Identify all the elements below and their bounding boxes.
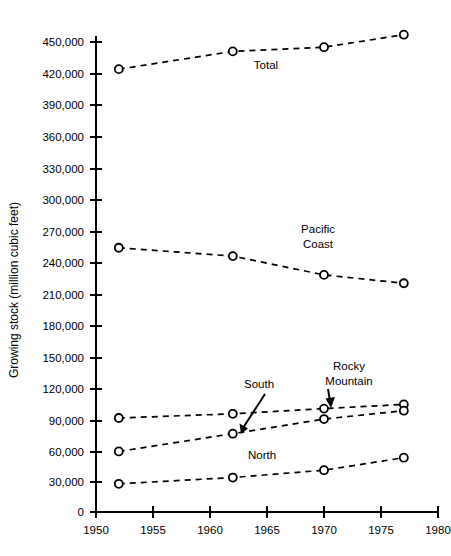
data-point <box>115 414 123 422</box>
x-tick-label: 1980 <box>425 524 451 536</box>
series-label-rocky-mountain-line2: Mountain <box>325 375 372 387</box>
series-label-total: Total <box>254 59 278 71</box>
x-tick-label: 1970 <box>311 524 337 536</box>
data-point <box>115 65 123 73</box>
data-point <box>229 474 237 482</box>
x-tick-label: 1960 <box>197 524 223 536</box>
series-label-south: South <box>244 378 274 390</box>
y-tick-330000: 330,000 <box>42 163 102 175</box>
y-tick-label: 390,000 <box>42 99 84 111</box>
x-tick-label: 1975 <box>368 524 394 536</box>
x-tick-1970: 1970 <box>311 506 337 536</box>
y-tick-210000: 210,000 <box>42 289 102 301</box>
x-tick-label: 1955 <box>140 524 166 536</box>
series-label-rocky-mountain-line1: Rocky <box>333 360 365 372</box>
y-tick-240000: 240,000 <box>42 257 102 269</box>
data-point <box>115 447 123 455</box>
data-point <box>400 454 408 462</box>
y-tick-label: 0 <box>78 506 84 518</box>
data-point <box>229 47 237 55</box>
y-tick-label: 330,000 <box>42 163 84 175</box>
data-point <box>320 415 328 423</box>
x-tick-1980: 1980 <box>425 506 451 536</box>
data-point <box>400 279 408 287</box>
data-point <box>400 407 408 415</box>
y-tick-label: 180,000 <box>42 320 84 332</box>
y-tick-label: 240,000 <box>42 257 84 269</box>
y-tick-390000: 390,000 <box>42 99 102 111</box>
y-tick-450000: 450,000 <box>42 36 102 48</box>
data-point <box>320 466 328 474</box>
y-tick-label: 90,000 <box>49 415 84 427</box>
x-tick-1960: 1960 <box>197 506 223 536</box>
series-rocky-mountain <box>115 400 408 422</box>
chart-plot-area: Growing stock (million cubic feet) 0 30,… <box>0 0 451 556</box>
series-label-pacific-coast-line2: Coast <box>303 238 334 250</box>
y-tick-label: 30,000 <box>49 476 84 488</box>
growing-stock-line-chart: Growing stock (million cubic feet) 0 30,… <box>0 0 451 556</box>
y-axis-ticks: 0 30,000 60,000 90,000 120,000 150,000 <box>42 36 102 518</box>
x-tick-1950: 1950 <box>83 506 109 536</box>
x-axis-ticks: 1950 1955 1960 1965 1970 1975 <box>83 506 451 536</box>
data-point <box>320 271 328 279</box>
y-tick-150000: 150,000 <box>42 352 102 364</box>
y-tick-label: 420,000 <box>42 68 84 80</box>
series-line <box>119 248 404 284</box>
y-tick-300000: 300,000 <box>42 194 102 206</box>
y-tick-label: 150,000 <box>42 352 84 364</box>
series-pacific-coast <box>115 244 408 288</box>
y-tick-270000: 270,000 <box>42 226 102 238</box>
y-tick-label: 120,000 <box>42 383 84 395</box>
series-label-north: North <box>248 449 276 461</box>
y-tick-0: 0 <box>78 506 102 518</box>
data-point <box>115 480 123 488</box>
data-point <box>115 244 123 252</box>
data-point <box>229 410 237 418</box>
series-layer <box>115 31 408 488</box>
data-point <box>229 252 237 260</box>
y-tick-420000: 420,000 <box>42 68 102 80</box>
x-tick-1955: 1955 <box>140 506 166 536</box>
x-tick-label: 1950 <box>83 524 109 536</box>
y-tick-label: 210,000 <box>42 289 84 301</box>
data-point <box>229 430 237 438</box>
y-tick-60000: 60,000 <box>49 446 102 458</box>
series-label-pacific-coast-line1: Pacific <box>301 223 335 235</box>
y-axis-title: Growing stock (million cubic feet) <box>7 202 21 378</box>
x-tick-label: 1965 <box>254 524 280 536</box>
x-tick-1965: 1965 <box>254 506 280 536</box>
data-point <box>400 31 408 39</box>
y-tick-label: 360,000 <box>42 131 84 143</box>
series-line <box>119 411 404 452</box>
y-tick-180000: 180,000 <box>42 320 102 332</box>
y-tick-90000: 90,000 <box>49 415 102 427</box>
series-line <box>119 458 404 484</box>
y-tick-label: 300,000 <box>42 194 84 206</box>
x-tick-1975: 1975 <box>368 506 394 536</box>
data-point <box>320 43 328 51</box>
data-point <box>320 405 328 413</box>
y-tick-label: 270,000 <box>42 226 84 238</box>
y-tick-label: 450,000 <box>42 36 84 48</box>
y-tick-label: 60,000 <box>49 446 84 458</box>
y-tick-30000: 30,000 <box>49 476 102 488</box>
y-tick-360000: 360,000 <box>42 131 102 143</box>
y-tick-120000: 120,000 <box>42 383 102 395</box>
